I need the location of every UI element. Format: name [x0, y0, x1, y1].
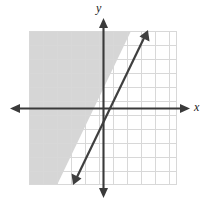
x-axis-left-arrow	[10, 104, 20, 113]
y-axis-label: y	[96, 2, 101, 14]
coordinate-plane	[0, 0, 212, 206]
y-axis-bottom-arrow	[99, 188, 108, 198]
x-axis-label: x	[194, 101, 199, 113]
x-axis-right-arrow	[180, 104, 190, 113]
graph-figure: y x	[0, 0, 212, 206]
y-axis-top-arrow	[99, 18, 108, 28]
